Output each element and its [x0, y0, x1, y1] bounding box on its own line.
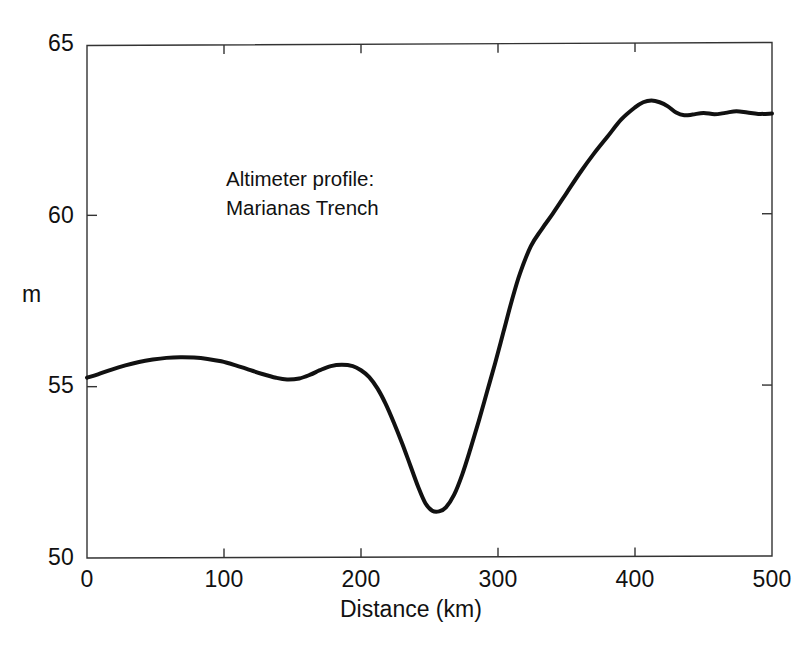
x-axis-title: Distance (km) [340, 596, 482, 623]
chart-annotation: Altimeter profile: Marianas Trench [226, 164, 379, 222]
annotation-line-2: Marianas Trench [226, 193, 379, 222]
y-tick-label-60: 60 [38, 202, 74, 229]
x-tick-label-0: 0 [57, 566, 117, 593]
x-tick-label-400: 400 [605, 566, 665, 593]
chart-canvas [0, 0, 812, 649]
y-axis-title: m [22, 281, 41, 308]
plot-frame [87, 43, 772, 559]
annotation-line-1: Altimeter profile: [226, 164, 379, 193]
x-tick-label-500: 500 [742, 566, 802, 593]
x-tick-label-200: 200 [331, 566, 391, 593]
y-tick-label-65: 65 [38, 30, 74, 57]
x-tick-label-300: 300 [468, 566, 528, 593]
data-series-line [87, 101, 772, 512]
altimeter-profile-figure: 65 60 55 50 m 0 100 200 300 400 500 Dist… [0, 0, 812, 649]
axis-ticks [87, 43, 772, 558]
y-tick-label-55: 55 [38, 372, 74, 399]
x-tick-label-100: 100 [194, 566, 254, 593]
